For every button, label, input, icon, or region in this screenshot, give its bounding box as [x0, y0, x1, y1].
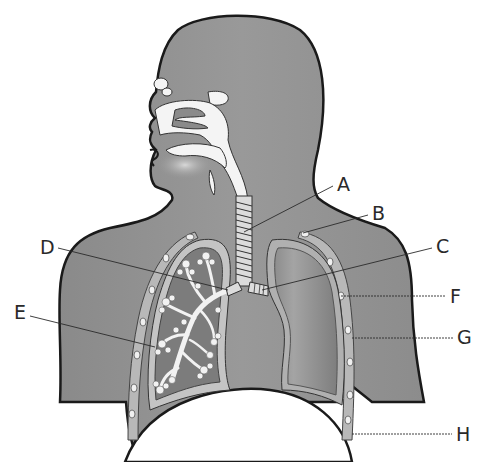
- label-c: C: [436, 237, 449, 256]
- label-e: E: [14, 303, 26, 322]
- label-g: G: [457, 328, 472, 347]
- respiratory-system-diagram: A B C D E F G H: [0, 0, 479, 462]
- label-d: D: [40, 238, 55, 257]
- label-a: A: [337, 175, 350, 194]
- label-f: F: [450, 287, 461, 306]
- diagram-illustration: [0, 0, 479, 462]
- label-b: B: [372, 204, 385, 223]
- label-h: H: [456, 425, 470, 444]
